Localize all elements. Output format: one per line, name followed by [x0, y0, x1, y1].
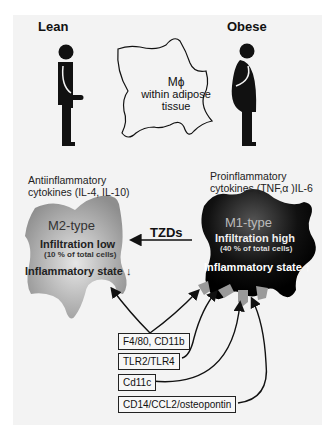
marker-box-cd11c: Cd11c [118, 374, 156, 391]
marker-box-cd14-ccl2-osteopontin: CD14/CCL2/osteopontin [118, 396, 236, 413]
proinflammatory-cytokines: Proinflammatory cytokines (TNF,α )IL-6 [210, 170, 313, 194]
cytokines-line2: cytokines (TNF,α )IL-6 [210, 182, 313, 194]
cytokines-line1: Proinflammatory [210, 170, 313, 182]
antiinflammatory-cytokines: Antiinflammatory cytokines (IL-4, IL-10) [28, 174, 130, 198]
macrophage-caption-line2: tissue [120, 100, 232, 112]
m2-percent: (10 % of total cells) [44, 250, 116, 259]
arrow-up-icon: ↑ [305, 261, 311, 273]
tzds-label: TZDs [150, 225, 183, 240]
state-text: Inflammatory state [204, 261, 302, 273]
m1-type-label: M1-type [225, 215, 272, 230]
obese-label: Obese [227, 19, 267, 34]
m1-percent: (40 % of total cells) [220, 244, 292, 253]
obese-person-icon [232, 44, 256, 147]
marker-box-tlr2-tlr4: TLR2/TLR4 [118, 353, 180, 370]
cytokines-line1: Antiinflammatory [28, 174, 130, 186]
macrophage-symbol: Mϕ [120, 76, 232, 88]
m2-inflammatory-state: Inflammatory state ↓ [25, 265, 131, 277]
lean-label: Lean [38, 19, 68, 34]
m1-infiltration: Infiltration high [215, 232, 295, 244]
marker-box-f480-cd11b: F4/80, CD11b [118, 333, 190, 350]
lean-person-icon [58, 45, 84, 147]
cytokines-line2: cytokines (IL-4, IL-10) [28, 186, 130, 198]
macrophage-caption-line1: within adipose [120, 88, 232, 100]
m2-infiltration: Infiltration low [40, 238, 115, 250]
m2-type-label: M2-type [48, 218, 95, 233]
m1-inflammatory-state: Inflammatory state ↑ [204, 261, 310, 273]
state-text: Inflammatory state [25, 265, 123, 277]
macrophage-caption: Mϕ within adipose tissue [120, 76, 232, 112]
arrow-down-icon: ↓ [126, 265, 132, 277]
